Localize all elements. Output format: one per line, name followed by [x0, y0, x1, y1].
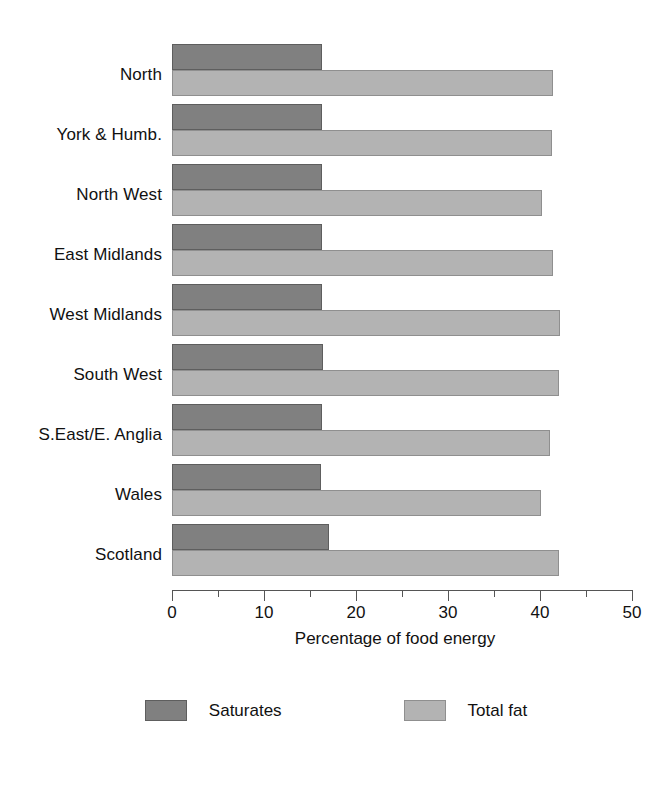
chart-plot-area: NorthYork & Humb.North WestEast Midlands… [0, 44, 672, 584]
bar-group [172, 344, 672, 404]
category-label: West Midlands [0, 284, 162, 344]
legend-swatch-sat [145, 700, 187, 721]
x-axis-minor-tick [494, 590, 495, 597]
chart-row: North [0, 44, 672, 104]
chart-row: East Midlands [0, 224, 672, 284]
category-label: York & Humb. [0, 104, 162, 164]
bar-saturates [172, 164, 322, 190]
x-axis-tick-label: 40 [531, 603, 550, 623]
category-label: North West [0, 164, 162, 224]
chart-row: S.East/E. Anglia [0, 404, 672, 464]
legend-item: Total fat [404, 700, 528, 721]
bar-total-fat [172, 70, 553, 96]
bar-saturates [172, 464, 321, 490]
category-label: East Midlands [0, 224, 162, 284]
chart-row: West Midlands [0, 284, 672, 344]
bar-total-fat [172, 490, 541, 516]
legend-swatch-fat [404, 700, 446, 721]
bar-group [172, 44, 672, 104]
bar-saturates [172, 44, 322, 70]
x-axis-minor-tick [586, 590, 587, 597]
chart-row: North West [0, 164, 672, 224]
bar-group [172, 404, 672, 464]
bar-saturates [172, 284, 322, 310]
x-axis-title: Percentage of food energy [0, 629, 672, 649]
chart-row: Wales [0, 464, 672, 524]
x-axis-minor-tick [402, 590, 403, 597]
chart-row: South West [0, 344, 672, 404]
bar-saturates [172, 524, 329, 550]
chart-legend: SaturatesTotal fat [0, 700, 672, 721]
x-axis-major-tick [264, 590, 265, 601]
x-axis-major-tick [356, 590, 357, 601]
bar-total-fat [172, 430, 550, 456]
x-axis-tick-label: 50 [623, 603, 642, 623]
bar-group [172, 524, 672, 584]
x-axis-major-tick [172, 590, 173, 601]
bar-group [172, 284, 672, 344]
x-axis-tick-label: 10 [255, 603, 274, 623]
category-label: Scotland [0, 524, 162, 584]
chart-row: York & Humb. [0, 104, 672, 164]
bar-group [172, 464, 672, 524]
bar-total-fat [172, 130, 552, 156]
x-axis-minor-tick [218, 590, 219, 597]
x-axis-tick-label: 20 [347, 603, 366, 623]
bar-group [172, 164, 672, 224]
bar-total-fat [172, 250, 553, 276]
bar-saturates [172, 404, 322, 430]
bar-group [172, 224, 672, 284]
bar-group [172, 104, 672, 164]
legend-item: Saturates [145, 700, 282, 721]
x-axis-major-tick [540, 590, 541, 601]
bar-total-fat [172, 370, 559, 396]
category-label: North [0, 44, 162, 104]
bar-chart: NorthYork & Humb.North WestEast Midlands… [0, 0, 672, 785]
x-axis: 01020304050 [172, 590, 632, 591]
bar-saturates [172, 104, 322, 130]
legend-label: Total fat [468, 701, 528, 721]
legend-label: Saturates [209, 701, 282, 721]
x-axis-tick-label: 30 [439, 603, 458, 623]
x-axis-major-tick [448, 590, 449, 601]
bar-saturates [172, 224, 322, 250]
bar-saturates [172, 344, 323, 370]
bar-total-fat [172, 550, 559, 576]
bar-total-fat [172, 310, 560, 336]
category-label: S.East/E. Anglia [0, 404, 162, 464]
x-axis-major-tick [632, 590, 633, 601]
category-label: Wales [0, 464, 162, 524]
x-axis-tick-label: 0 [167, 603, 176, 623]
bar-total-fat [172, 190, 542, 216]
chart-row: Scotland [0, 524, 672, 584]
x-axis-minor-tick [310, 590, 311, 597]
category-label: South West [0, 344, 162, 404]
